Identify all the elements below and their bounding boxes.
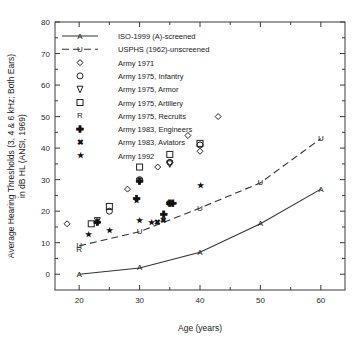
svg-text:A: A [137,263,143,272]
marker-diamond-open [125,186,131,192]
svg-text:A: A [77,32,83,41]
scatter-plot: 203040506001020304050607080Age (years)Av… [0,0,360,339]
marker-circle-open [77,73,83,79]
marker-diamond-open [64,221,70,227]
marker-x-filled: ✖ [166,199,173,208]
marker-star-filled: ★ [85,230,93,239]
marker-square-open [77,100,83,106]
y-tick-label: 20 [41,207,50,216]
y-tick-label: 60 [41,81,50,90]
y-tick-label: 70 [41,50,50,59]
marker-letter-U: U [137,227,143,236]
svg-text:✖: ✖ [160,216,167,225]
svg-text:✖: ✖ [166,199,173,208]
svg-text:A: A [76,270,82,279]
marker-letter-A: A [137,263,143,272]
svg-text:★: ★ [148,218,156,227]
y-axis-title-line1: Average Hearing Thresholds (3, 4 & 6 kHz… [6,54,16,258]
svg-text:U: U [258,178,264,187]
marker-square-open [167,151,173,157]
y-tick-label: 10 [41,239,50,248]
y-tick-label: 50 [41,113,50,122]
marker-letter-R: R [76,245,82,254]
marker-star-filled: ★ [106,226,114,235]
chart-container: 203040506001020304050607080Age (years)Av… [0,0,360,339]
svg-text:★: ★ [197,181,205,190]
series-path [79,189,321,274]
svg-text:★: ★ [106,226,114,235]
legend-item[interactable]: ✖Army 1983, Aviators [77,138,186,148]
svg-text:U: U [197,204,203,213]
svg-text:U: U [137,227,143,236]
marker-diamond-open [215,114,221,120]
legend-label: Army 1983, Aviators [118,138,185,147]
marker-letter-U: U [77,45,83,54]
marker-circle-open [197,142,203,148]
svg-text:U: U [77,45,83,54]
marker-diamond-open [77,60,83,66]
x-tick-label: 30 [135,296,144,305]
marker-letter-U: U [258,178,264,187]
svg-text:U: U [318,134,324,143]
marker-x-filled: ✖ [77,138,84,147]
svg-text:★: ★ [136,216,144,225]
legend-label: Army 1992 [118,152,154,161]
marker-plus-filled [77,126,84,133]
y-tick-label: 80 [41,18,50,27]
legend-label: Army 1975, Recruits [118,112,186,121]
legend-item[interactable]: Army 1975, Armor [77,85,179,94]
svg-text:★: ★ [133,196,141,205]
svg-text:A: A [258,219,264,228]
svg-text:R: R [77,111,83,120]
svg-text:A: A [197,248,203,257]
marker-letter-U: U [197,204,203,213]
y-tick-label: 30 [41,176,50,185]
x-tick-label: 50 [256,296,265,305]
marker-star-filled: ★ [136,216,144,225]
y-axis-title-line2: in dB HL (ANSI, 1969) [17,114,27,198]
legend-item[interactable]: Army 1971 [77,59,154,68]
svg-text:A: A [318,185,324,194]
legend-item[interactable]: Army 1975, Artillery [77,99,183,108]
series-usphs-1962-unscreened: UUUUU [76,134,324,250]
legend-item[interactable]: Army 1975, Infantry [77,72,184,81]
marker-letter-U: U [318,134,324,143]
marker-letter-A: A [76,270,82,279]
marker-star-filled: ★ [133,196,141,205]
marker-diamond-open [197,148,203,154]
marker-letter-A: A [197,248,203,257]
legend-label: Army 1975, Infantry [118,72,184,81]
x-axis-title: Age (years) [178,323,222,333]
svg-text:★: ★ [77,151,85,160]
svg-text:R: R [76,245,82,254]
marker-letter-R: R [77,111,83,120]
svg-text:✖: ✖ [77,138,84,147]
marker-letter-A: A [318,185,324,194]
legend-label: Army 1975, Armor [118,85,179,94]
svg-text:★: ★ [85,230,93,239]
marker-star-filled: ★ [77,151,85,160]
marker-letter-A: A [77,32,83,41]
legend-label: Army 1983, Engineers [118,125,192,134]
legend-label: USPHS (1962)-unscreened [118,45,209,54]
legend-item[interactable]: ★Army 1992 [77,151,155,161]
legend-item[interactable]: RArmy 1975, Recruits [77,111,186,121]
series-army-1975-recruits: R [76,245,82,254]
legend-item[interactable]: AISO-1999 (A)-screened [62,32,196,42]
y-tick-label: 40 [41,144,50,153]
marker-square-open [137,164,143,170]
x-tick-label: 20 [75,296,84,305]
x-tick-label: 60 [316,296,325,305]
marker-diamond-open [155,164,161,170]
marker-x-filled: ✖ [160,216,167,225]
marker-star-filled: ★ [148,218,156,227]
legend-label: ISO-1999 (A)-screened [118,32,196,41]
legend-item[interactable]: UUSPHS (1962)-unscreened [62,45,209,55]
marker-triangle-down-open [77,86,83,93]
legend-label: Army 1975, Artillery [118,99,183,108]
marker-star-filled: ★ [197,181,205,190]
series-army-1992: ★★★★★★ [85,181,205,239]
marker-square-open [88,221,94,227]
legend-item[interactable]: Army 1983, Engineers [77,125,193,134]
marker-letter-A: A [258,219,264,228]
